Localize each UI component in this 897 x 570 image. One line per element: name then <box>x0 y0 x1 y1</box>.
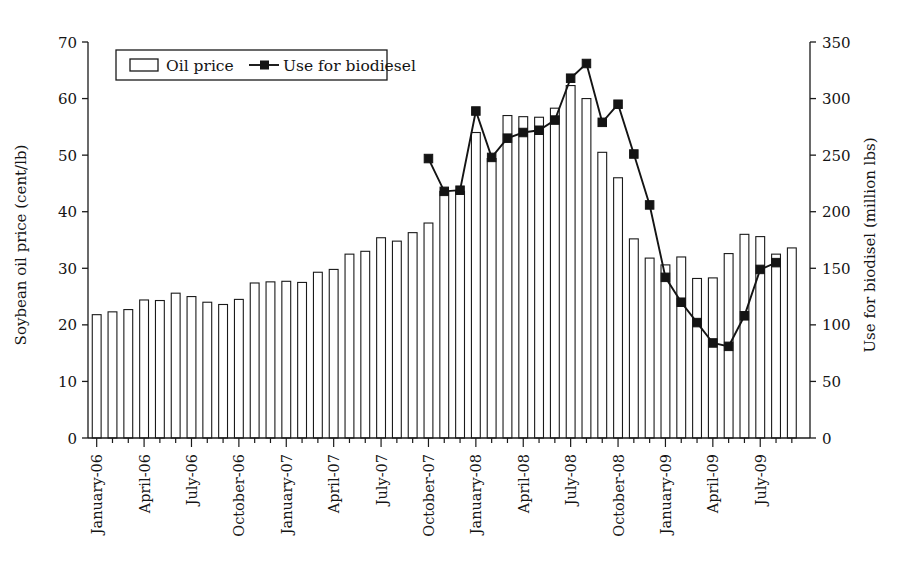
bar-February-08 <box>487 159 496 438</box>
bar-June-06 <box>171 293 180 438</box>
right-axis-title: Use for biodisel (million lbs) <box>861 137 879 352</box>
biodiesel-marker-December-07 <box>456 186 465 195</box>
biodiesel-marker-June-09 <box>740 312 749 321</box>
biodiesel-marker-March-09 <box>693 318 702 327</box>
biodiesel-marker-April-09 <box>709 339 718 348</box>
bar-December-06 <box>266 282 275 438</box>
x-tick-label: April-07 <box>326 454 342 514</box>
left-tick-label: 60 <box>58 90 77 108</box>
biodiesel-marker-March-08 <box>503 134 512 143</box>
bar-March-07 <box>313 272 322 438</box>
left-tick-label: 70 <box>58 34 77 52</box>
x-tick-label: January-09 <box>658 454 674 536</box>
left-tick-label: 10 <box>58 373 77 391</box>
bar-October-07 <box>424 223 433 438</box>
biodiesel-marker-May-08 <box>535 126 544 135</box>
x-tick-label: April-09 <box>705 454 721 514</box>
x-tick-label: April-08 <box>516 454 532 514</box>
bar-May-08 <box>535 117 544 438</box>
x-tick-label: July-08 <box>563 454 579 507</box>
bar-February-07 <box>298 282 307 438</box>
x-tick-label: January-07 <box>279 454 295 536</box>
bar-November-07 <box>440 191 449 438</box>
bar-September-08 <box>598 152 607 438</box>
bar-August-09 <box>772 254 781 438</box>
bar-October-06 <box>234 299 243 438</box>
bar-November-08 <box>629 239 638 438</box>
bar-April-06 <box>140 300 149 438</box>
biodiesel-marker-October-08 <box>614 100 623 109</box>
bar-June-08 <box>550 108 559 438</box>
x-tick-label: October-06 <box>231 454 247 537</box>
legend-swatch-oil-price <box>130 59 158 71</box>
bar-March-09 <box>693 278 702 438</box>
bar-April-09 <box>708 278 717 438</box>
bar-April-08 <box>519 117 528 438</box>
right-tick-label: 200 <box>822 203 851 221</box>
bar-March-08 <box>503 116 512 438</box>
biodiesel-marker-February-08 <box>487 153 496 162</box>
right-tick-label: 0 <box>822 430 832 448</box>
bar-September-06 <box>219 304 228 438</box>
biodiesel-marker-November-08 <box>630 150 639 159</box>
bar-December-08 <box>645 258 654 438</box>
bar-October-08 <box>614 178 623 438</box>
biodiesel-marker-May-09 <box>724 342 733 351</box>
bar-March-06 <box>124 310 133 438</box>
biodiesel-marker-January-08 <box>472 107 481 116</box>
right-tick-label: 50 <box>822 373 841 391</box>
biodiesel-marker-July-09 <box>756 265 765 274</box>
bar-September-07 <box>408 233 417 438</box>
chart-legend: Oil priceUse for biodiesel <box>116 50 416 80</box>
x-tick-label: July-07 <box>374 454 390 507</box>
left-tick-label: 20 <box>58 316 77 334</box>
bar-April-07 <box>329 269 338 438</box>
bar-January-07 <box>282 281 291 438</box>
right-tick-label: 300 <box>822 90 851 108</box>
bar-December-07 <box>456 191 465 438</box>
right-tick-label: 150 <box>822 260 851 278</box>
right-tick-label: 100 <box>822 316 851 334</box>
bar-January-09 <box>661 265 670 438</box>
left-tick-label: 40 <box>58 203 77 221</box>
x-tick-label: October-07 <box>421 454 437 537</box>
biodiesel-marker-July-08 <box>566 74 575 83</box>
x-tick-label: July-09 <box>753 454 769 507</box>
left-tick-label: 30 <box>58 260 77 278</box>
bar-May-06 <box>155 301 164 438</box>
bar-August-08 <box>582 99 591 438</box>
chart-figure: 010203040506070 050100150200250300350 Ja… <box>0 0 897 570</box>
biodiesel-marker-August-08 <box>582 59 591 68</box>
bar-February-09 <box>677 257 686 438</box>
bar-July-08 <box>566 86 575 438</box>
bar-November-06 <box>250 283 259 438</box>
bar-June-09 <box>740 234 749 438</box>
bar-August-07 <box>392 241 401 438</box>
biodiesel-marker-December-08 <box>645 201 654 210</box>
x-tick-label: April-06 <box>137 454 153 514</box>
bar-September-09 <box>787 248 796 438</box>
legend-marker-use-for-biodiesel <box>260 61 269 70</box>
x-tick-label: January-06 <box>89 454 105 536</box>
bar-February-06 <box>108 312 117 438</box>
biodiesel-marker-November-07 <box>440 187 449 196</box>
bar-July-07 <box>377 238 386 438</box>
bar-June-07 <box>361 251 370 438</box>
left-tick-label: 0 <box>67 430 77 448</box>
biodiesel-marker-September-08 <box>598 118 607 127</box>
bar-January-06 <box>92 315 101 438</box>
x-tick-label: July-06 <box>184 454 200 507</box>
bar-July-06 <box>187 297 196 438</box>
right-tick-label: 350 <box>822 34 851 52</box>
left-axis-title: Soybean oil price (cent/lb) <box>12 145 30 346</box>
biodiesel-marker-January-09 <box>661 273 670 282</box>
biodiesel-marker-October-07 <box>424 154 433 163</box>
biodiesel-marker-June-08 <box>551 116 560 125</box>
legend-label-use-for-biodiesel: Use for biodiesel <box>283 57 416 75</box>
bar-January-08 <box>471 133 480 438</box>
legend-label-oil-price: Oil price <box>166 57 234 75</box>
dual-axis-bar-line-chart: 010203040506070 050100150200250300350 Ja… <box>0 0 897 570</box>
bar-August-06 <box>203 302 212 438</box>
x-tick-label: October-08 <box>611 454 627 537</box>
biodiesel-marker-August-09 <box>772 258 781 267</box>
